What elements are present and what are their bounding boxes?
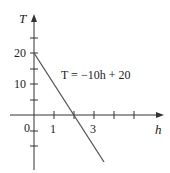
equation-label: T = −10h + 20 (61, 68, 130, 82)
y-axis-label: T (19, 11, 27, 26)
origin-label: 0 (24, 121, 30, 135)
x-tick-label-1: 1 (50, 122, 56, 136)
x-tick-label-3: 3 (90, 122, 96, 136)
y-tick-label-10: 10 (14, 77, 26, 91)
x-axis-label: h (155, 122, 162, 137)
x-axis-arrow-icon (156, 112, 164, 118)
chart: T h 0 1 3 20 10 T = −10h + 20 (0, 0, 170, 173)
y-tick-label-20: 20 (14, 46, 26, 60)
y-axis-arrow-icon (31, 14, 37, 22)
